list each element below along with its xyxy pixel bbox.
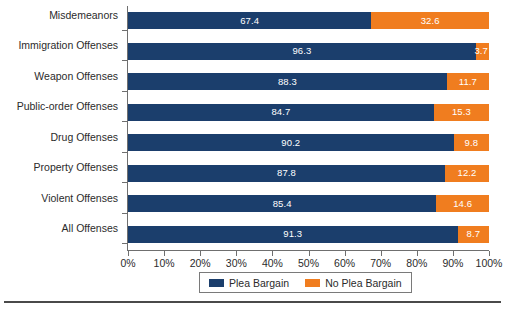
bar-segment-plea-bargain: 90.2 (128, 134, 454, 151)
footer-divider (4, 301, 501, 303)
bar-value-label: 8.7 (467, 229, 481, 239)
x-axis-tick-label: 70% (370, 257, 391, 270)
x-axis-tick-label: 100% (476, 257, 503, 270)
chart-screenshot: MisdemeanorsImmigration OffensesWeapon O… (0, 0, 505, 314)
bar-row: 84.715.3 (128, 104, 489, 121)
bar-segment-no-plea-bargain: 12.2 (445, 165, 489, 182)
bar-row: 90.29.8 (128, 134, 489, 151)
bar-value-label: 90.2 (281, 138, 300, 148)
x-axis-tick (417, 251, 418, 256)
x-axis-tick (236, 251, 237, 256)
legend-label: Plea Bargain (229, 277, 289, 289)
bar-segment-plea-bargain: 67.4 (128, 12, 371, 29)
y-axis-category-label: Drug Offenses (0, 131, 118, 143)
x-axis-tick (164, 251, 165, 256)
bar-segment-no-plea-bargain: 11.7 (447, 73, 489, 90)
bar-segment-plea-bargain: 87.8 (128, 165, 445, 182)
legend-swatch-icon (209, 279, 224, 287)
x-axis-tick (345, 251, 346, 256)
bar-row: 96.33.7 (128, 43, 489, 60)
bar-value-label: 91.3 (283, 229, 302, 239)
y-axis-tick (122, 121, 127, 122)
x-axis-tick-label: 30% (226, 257, 247, 270)
bar-value-label: 85.4 (273, 199, 292, 209)
x-axis-tick (272, 251, 273, 256)
bar-value-label: 32.6 (421, 16, 440, 26)
x-axis-tick (200, 251, 201, 256)
y-axis-category-label: All Offenses (0, 222, 118, 234)
bar-value-label: 67.4 (240, 16, 259, 26)
bar-value-label: 14.6 (453, 199, 472, 209)
bar-segment-no-plea-bargain: 32.6 (371, 12, 489, 29)
x-axis-tick (489, 251, 490, 256)
bar-segment-plea-bargain: 91.3 (128, 226, 458, 243)
legend-item[interactable]: Plea Bargain (209, 277, 289, 289)
y-axis-category-label: Weapon Offenses (0, 70, 118, 82)
y-axis-tick (122, 213, 127, 214)
y-axis-tick (122, 60, 127, 61)
bar-segment-plea-bargain: 85.4 (128, 195, 436, 212)
bar-value-label: 96.3 (292, 46, 311, 56)
chart-legend: Plea BargainNo Plea Bargain (199, 272, 412, 293)
bar-value-label: 15.3 (452, 107, 471, 117)
plot-area: 67.432.696.33.788.311.784.715.390.29.887… (128, 6, 489, 250)
y-axis-tick (122, 30, 127, 31)
bar-segment-plea-bargain: 84.7 (128, 104, 434, 121)
x-axis-tick (309, 251, 310, 256)
x-axis-tick-label: 80% (406, 257, 427, 270)
x-axis-tick (128, 251, 129, 256)
x-axis-tick (453, 251, 454, 256)
x-axis-tick-label: 10% (154, 257, 175, 270)
bar-row: 88.311.7 (128, 73, 489, 90)
bar-row: 85.414.6 (128, 195, 489, 212)
y-axis-tick (122, 91, 127, 92)
bar-segment-no-plea-bargain: 14.6 (436, 195, 489, 212)
legend-label: No Plea Bargain (325, 277, 401, 289)
bar-value-label: 84.7 (271, 107, 290, 117)
x-axis-tick (381, 251, 382, 256)
stacked-bar-chart: MisdemeanorsImmigration OffensesWeapon O… (0, 0, 505, 258)
y-axis-category-label: Public-order Offenses (0, 100, 118, 112)
bar-segment-no-plea-bargain: 8.7 (458, 226, 489, 243)
legend-item[interactable]: No Plea Bargain (305, 277, 401, 289)
bar-row: 87.812.2 (128, 165, 489, 182)
y-axis-tick (122, 243, 127, 244)
bar-value-label: 3.7 (474, 46, 488, 56)
y-axis-tick (122, 182, 127, 183)
bar-segment-plea-bargain: 88.3 (128, 73, 447, 90)
x-axis-tick-label: 60% (334, 257, 355, 270)
x-axis-tick-label: 50% (298, 257, 319, 270)
x-axis-tick-label: 90% (442, 257, 463, 270)
bar-row: 91.38.7 (128, 226, 489, 243)
bar-value-label: 12.2 (458, 168, 477, 178)
bar-row: 67.432.6 (128, 12, 489, 29)
y-axis-category-label: Misdemeanors (0, 9, 118, 21)
bar-value-label: 87.8 (277, 168, 296, 178)
bar-value-label: 9.8 (465, 138, 479, 148)
bar-segment-no-plea-bargain: 15.3 (434, 104, 489, 121)
x-axis-tick-label: 0% (120, 257, 135, 270)
bar-segment-no-plea-bargain: 3.7 (476, 43, 489, 60)
x-axis-tick-label: 40% (262, 257, 283, 270)
y-axis-category-label: Property Offenses (0, 161, 118, 173)
y-axis-category-label: Violent Offenses (0, 192, 118, 204)
legend-swatch-icon (305, 279, 320, 287)
bar-value-label: 11.7 (459, 77, 477, 87)
bar-segment-no-plea-bargain: 9.8 (454, 134, 489, 151)
bar-segment-plea-bargain: 96.3 (128, 43, 476, 60)
bar-value-label: 88.3 (278, 77, 297, 87)
x-axis-tick-labels: 0%10%20%30%40%50%60%70%80%90%100% (0, 257, 505, 273)
y-axis-category-label: Immigration Offenses (0, 39, 118, 51)
x-axis-tick-label: 20% (190, 257, 211, 270)
y-axis-tick (122, 152, 127, 153)
